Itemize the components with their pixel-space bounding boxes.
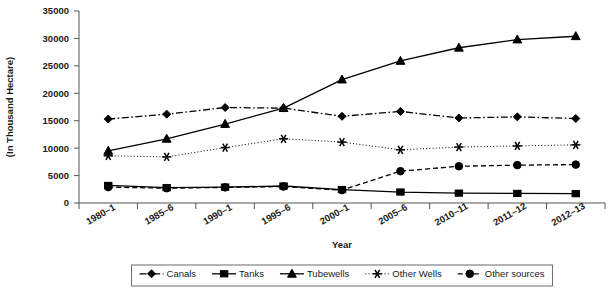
series-other-sources [104, 161, 579, 194]
y-axis-tick-label: 25000 [43, 60, 69, 71]
y-axis-tick-label: 5000 [48, 170, 69, 181]
svg-text:1980–1: 1980–1 [84, 201, 118, 227]
x-axis-tick-label: 2005–6 [376, 201, 409, 226]
data-point-square-icon [572, 191, 579, 197]
legend-label: Other sources [485, 268, 545, 279]
svg-text:2005–6: 2005–6 [376, 201, 409, 226]
data-point-circle-icon [466, 270, 474, 278]
data-point-circle-icon [163, 184, 171, 192]
series-line-tubewells [108, 36, 576, 151]
y-axis-tick-label: 0 [64, 197, 69, 208]
x-axis-tick-label: 2010–11 [433, 200, 471, 228]
data-point-diamond-icon [396, 107, 404, 115]
data-point-triangle-icon [571, 32, 580, 40]
y-axis-tick-label: 15000 [43, 115, 69, 126]
legend-item-other-sources[interactable]: Other sources [458, 268, 545, 279]
data-point-asterisk-icon [162, 153, 171, 161]
series-canals [104, 104, 580, 124]
chart-legend: CanalsTanksTubewellsOther WellsOther sou… [132, 265, 553, 286]
data-point-asterisk-icon [396, 146, 405, 154]
data-point-circle-icon [455, 162, 463, 170]
svg-text:2010–11: 2010–11 [433, 200, 471, 228]
data-series-layer [104, 32, 581, 197]
x-axis-tick-label: 1985–6 [142, 201, 175, 226]
data-point-square-icon [455, 190, 462, 196]
data-point-circle-icon [104, 183, 112, 191]
data-point-diamond-icon [338, 112, 346, 120]
x-axis-tick-label: 2012–13 [549, 200, 587, 228]
data-point-asterisk-icon [454, 143, 463, 151]
x-axis-title: Year [332, 239, 352, 250]
data-point-asterisk-icon [571, 141, 580, 149]
svg-text:2000–1: 2000–1 [318, 201, 352, 227]
svg-text:1995–6: 1995–6 [259, 201, 292, 226]
data-point-square-icon [220, 271, 227, 277]
svg-text:2011–12: 2011–12 [491, 200, 528, 228]
data-point-circle-icon [572, 161, 580, 169]
data-point-diamond-icon [104, 115, 112, 123]
data-point-square-icon [397, 189, 404, 195]
legend-label: Tubewells [307, 268, 350, 279]
y-axis-tick-label: 35000 [43, 5, 69, 16]
svg-text:1985–6: 1985–6 [142, 201, 175, 226]
x-axis-tick-label: 1980–1 [84, 201, 118, 227]
x-axis-tick-label: 1995–6 [259, 201, 292, 226]
x-axis-tick-labels: 1980–11985–61990–11995–62000–12005–62010… [84, 200, 587, 228]
data-point-diamond-icon [572, 115, 580, 123]
x-axis-tick-label: 2000–1 [318, 201, 352, 227]
data-point-diamond-icon [513, 113, 521, 121]
data-point-diamond-icon [221, 104, 229, 112]
data-point-circle-icon [338, 186, 346, 194]
x-axis-tick-label: 2011–12 [491, 200, 528, 228]
y-axis-tick-labels: 05000100001500020000250003000035000 [43, 5, 69, 208]
series-tubewells [104, 32, 580, 155]
chart-axes [79, 11, 605, 203]
y-axis-tick-label: 20000 [43, 88, 69, 99]
data-point-circle-icon [280, 183, 288, 191]
line-chart: 05000100001500020000250003000035000 1980… [0, 0, 615, 298]
y-axis-title: (In Thousand Hectare) [4, 57, 15, 157]
y-axis-tick-label: 30000 [43, 33, 69, 44]
y-axis-tick-label: 10000 [43, 143, 69, 154]
data-point-asterisk-icon [221, 144, 230, 152]
x-axis-tick-label: 1990–1 [201, 201, 235, 227]
data-point-circle-icon [221, 184, 229, 192]
data-point-circle-icon [514, 161, 522, 169]
svg-text:1990–1: 1990–1 [201, 201, 235, 227]
legend-label: Canals [167, 268, 197, 279]
series-other-wells [104, 135, 581, 161]
data-point-diamond-icon [455, 114, 463, 122]
data-point-diamond-icon [163, 110, 171, 118]
data-point-square-icon [514, 190, 521, 196]
data-point-asterisk-icon [337, 138, 346, 146]
data-point-asterisk-icon [513, 142, 522, 150]
data-point-circle-icon [397, 167, 405, 175]
legend-label: Tanks [239, 268, 264, 279]
chart-canvas: 05000100001500020000250003000035000 1980… [0, 0, 615, 298]
legend-label: Other Wells [392, 268, 442, 279]
data-point-asterisk-icon [279, 135, 288, 143]
svg-text:2012–13: 2012–13 [549, 200, 587, 228]
y-axis-tick-marks [74, 11, 79, 203]
